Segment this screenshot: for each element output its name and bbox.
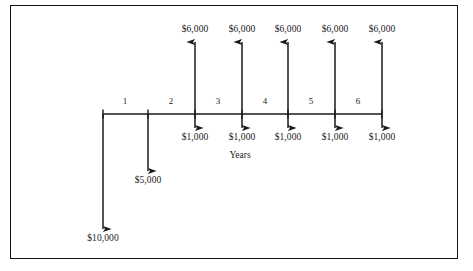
inflow-amount-label-2: $6,000 — [275, 25, 302, 35]
inflow-amount-label-3: $6,000 — [322, 25, 349, 35]
year-label-5: 5 — [309, 97, 314, 106]
inflow-amount-label-1: $6,000 — [229, 25, 256, 35]
cash-outflow-arrows — [103, 114, 382, 229]
inflow-amount-label-0: $6,000 — [182, 25, 209, 35]
outflow-amount-label-1: $1,000 — [229, 133, 256, 143]
year-label-4: 4 — [263, 97, 268, 106]
cash-inflow-arrows — [195, 42, 382, 114]
axis-title-years: Years — [229, 151, 250, 161]
outflow-amount-label-0: $1,000 — [182, 133, 209, 143]
outflow-amount-label-2: $1,000 — [275, 133, 302, 143]
outflow-amount-label-6: $10,000 — [87, 234, 119, 244]
cash-flow-timeline-figure: $6,000$6,000$6,000$6,000$6,000 $1,000$1,… — [0, 0, 473, 271]
year-label-1: 1 — [123, 97, 128, 106]
inflow-amount-label-4: $6,000 — [369, 25, 396, 35]
year-label-3: 3 — [216, 97, 221, 106]
outflow-amount-label-5: $5,000 — [135, 176, 162, 186]
outflow-amount-label-4: $1,000 — [369, 133, 396, 143]
outflow-amount-label-3: $1,000 — [322, 133, 349, 143]
year-label-2: 2 — [169, 97, 174, 106]
year-label-6: 6 — [356, 97, 361, 106]
